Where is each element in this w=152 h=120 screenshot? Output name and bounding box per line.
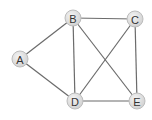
node-a: A — [12, 51, 28, 67]
edge-b-d — [73, 18, 75, 101]
node-label: B — [69, 13, 76, 25]
node-label: D — [71, 96, 79, 108]
edge-c-e — [135, 19, 137, 101]
node-b: B — [65, 10, 81, 26]
node-d: D — [67, 93, 83, 109]
node-label: A — [16, 54, 24, 66]
edge-a-b — [20, 18, 73, 59]
edges — [20, 18, 137, 101]
node-label: E — [133, 96, 140, 108]
edge-b-c — [73, 18, 135, 19]
graph-diagram: ABCDE — [0, 0, 152, 120]
node-e: E — [129, 93, 145, 109]
node-label: C — [131, 14, 139, 26]
node-c: C — [127, 11, 143, 27]
edge-a-d — [20, 59, 75, 101]
